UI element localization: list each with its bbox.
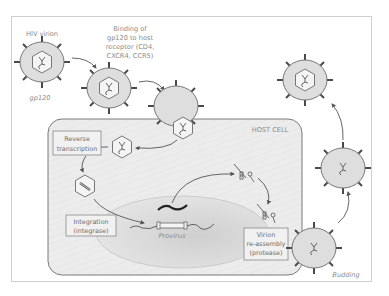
hiv-lifecycle-diagram: HOST CELL HIV virion gp120 Binding of gp… [0,0,389,296]
svg-text:gp120 to host: gp120 to host [107,34,153,42]
svg-text:Integration: Integration [73,218,108,226]
integration-box: Integration (integrase) [66,215,116,236]
hiv-virion [14,36,70,88]
hiv-virion-label: HIV virion [26,30,58,38]
binding-label: Binding of gp120 to host receptor (CD4, … [106,25,154,60]
svg-text:receptor (CD4,: receptor (CD4, [106,43,154,51]
provirus [157,222,187,229]
arrow-maturation [332,104,343,140]
binding-virion [81,62,137,114]
svg-text:transcription: transcription [57,145,98,153]
reverse-transcription-box: Reverse transcription [53,131,101,155]
svg-text:(integrase): (integrase) [73,227,108,235]
gp120-label: gp120 [30,94,51,102]
mature-virion [277,54,333,106]
svg-text:CXCR4, CCR5): CXCR4, CCR5) [107,52,154,60]
svg-text:re-assembly: re-assembly [246,240,285,248]
released-virion [315,142,371,194]
reassembly-box: Virion re-assembly (protease) [244,228,288,260]
svg-text:(protease): (protease) [249,249,282,257]
arrow-binding [72,58,96,68]
budding-label: Budding [332,271,359,279]
svg-text:Binding of: Binding of [113,25,147,33]
arrow-release [338,192,349,223]
svg-text:Virion: Virion [257,231,275,239]
svg-text:Reverse: Reverse [64,135,90,143]
provirus-label: Provirus [159,232,186,240]
arrow-fusion [139,81,164,90]
host-cell-label: HOST CELL [252,126,289,134]
